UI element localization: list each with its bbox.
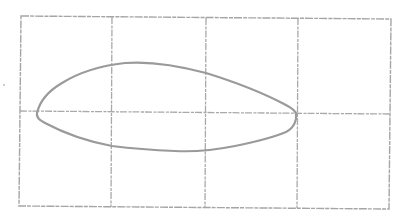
closed-loop-curve bbox=[37, 63, 296, 152]
diagram-canvas bbox=[0, 0, 407, 219]
speck-mark bbox=[3, 84, 5, 86]
